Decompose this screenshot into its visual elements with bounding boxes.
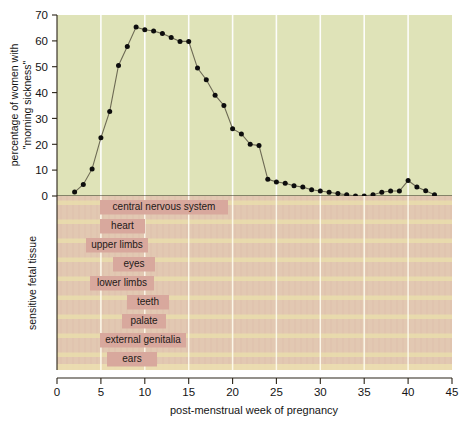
tissue-row-central-nervous-system: central nervous system [100, 200, 228, 215]
x-tick-label-20: 20 [226, 386, 239, 398]
tissue-row-heart: heart [100, 219, 145, 234]
x-tick-label-15: 15 [182, 386, 195, 398]
tissue-row-external-genitalia: external genitalia [100, 333, 186, 348]
tissue-bar-label: teeth [137, 296, 159, 307]
upper-y-axis-title-line1: percentage of women with [8, 44, 20, 167]
tissue-bar-label: upper limbs [91, 239, 143, 250]
chart-canvas: 0 10 20 30 40 50 60 70 percentage of wom… [0, 0, 469, 427]
y-tick-label-50: 50 [35, 61, 48, 73]
tissue-row-eyes: eyes [113, 257, 155, 272]
x-tick-label-25: 25 [270, 386, 283, 398]
y-tick-label-20: 20 [35, 139, 48, 151]
y-tick-label-10: 10 [35, 164, 48, 176]
upper-y-ticks [52, 15, 57, 196]
chart-figure: 0 10 20 30 40 50 60 70 percentage of wom… [0, 0, 469, 427]
x-axis-tick-labels: 0 5 10 15 20 25 30 35 40 45 [54, 386, 459, 398]
y-tick-label-0: 0 [42, 190, 48, 202]
upper-y-axis-title: percentage of women with "morning sickne… [8, 44, 33, 167]
upper-y-tick-labels: 0 10 20 30 40 50 60 70 [35, 9, 48, 202]
tissue-row-palate: palate [122, 314, 166, 329]
x-tick-label-5: 5 [98, 386, 104, 398]
x-tick-label-0: 0 [54, 386, 60, 398]
tissue-row-ears: ears [107, 352, 157, 367]
lower-y-axis-title: sensitive fetal tissue [26, 236, 38, 330]
tissue-bar-label: palate [130, 315, 158, 326]
x-axis-title: post-menstrual week of pregnancy [170, 404, 339, 416]
tissue-row-lower-limbs: lower limbs [90, 276, 154, 291]
upper-panel-background [57, 15, 452, 196]
upper-panel: 0 10 20 30 40 50 60 70 percentage of wom… [8, 9, 452, 202]
x-tick-label-10: 10 [138, 386, 151, 398]
tissue-row-upper-limbs: upper limbs [86, 238, 148, 253]
x-tick-label-35: 35 [358, 386, 371, 398]
y-tick-label-60: 60 [35, 35, 48, 47]
tissue-bar-label: ears [122, 353, 141, 364]
y-tick-label-40: 40 [35, 87, 48, 99]
upper-y-axis-title-line2: "morning sickness" [21, 60, 33, 149]
tissue-bar-label: eyes [123, 258, 144, 269]
x-axis: 0 5 10 15 20 25 30 35 40 45 post-menstru… [54, 378, 459, 416]
y-tick-label-70: 70 [35, 9, 48, 21]
tissue-bar-label: lower limbs [97, 277, 147, 288]
x-tick-label-40: 40 [402, 386, 415, 398]
x-axis-ticks [57, 378, 452, 384]
tissue-bar-label: external genitalia [105, 334, 181, 345]
y-tick-label-30: 30 [35, 113, 48, 125]
tissue-row-teeth: teeth [127, 295, 169, 310]
x-tick-label-45: 45 [446, 386, 459, 398]
x-tick-label-30: 30 [314, 386, 327, 398]
tissue-bar-label: central nervous system [113, 201, 216, 212]
lower-panel: central nervous system heart upper limbs… [26, 196, 452, 370]
tissue-bar-label: heart [111, 220, 134, 231]
